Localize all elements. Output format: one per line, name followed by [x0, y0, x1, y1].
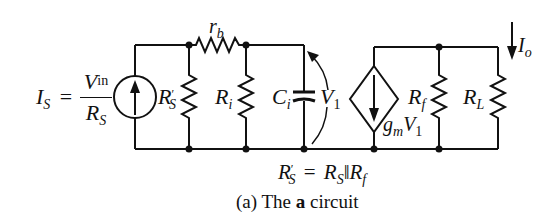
rl-label: RL — [463, 86, 484, 108]
v1-arc-lower — [312, 107, 327, 144]
v1-subscript: 1 — [333, 97, 340, 112]
rf-symbol: R — [408, 84, 421, 109]
fraction-numerator: Vin — [80, 69, 112, 98]
gmv-symbol: V — [403, 113, 415, 135]
eq-r1-sub: S — [288, 172, 295, 187]
fraction-denominator: RS — [80, 98, 112, 126]
io-subscript: o — [525, 45, 532, 60]
source-fraction: Vin RS — [80, 69, 112, 126]
parallel-equation: R′S = RS‖Rf — [278, 162, 366, 183]
node-dot — [436, 146, 443, 153]
caption-word: The — [262, 191, 292, 212]
is-subscript: S — [43, 97, 50, 112]
gm-symbol: g — [383, 113, 393, 135]
is-arrowhead — [130, 80, 140, 93]
rs-subscript: S — [99, 113, 106, 128]
node-dot — [371, 146, 378, 153]
rsp-subscript: S — [169, 97, 176, 112]
rb-symbol: r — [209, 15, 217, 37]
source-current-label: IS = — [36, 86, 72, 108]
caption-word: circuit — [310, 191, 359, 212]
ci-symbol: C — [272, 84, 287, 109]
rs-symbol: R — [86, 100, 99, 125]
caption-bold-a: a — [296, 191, 306, 212]
node-dot — [186, 146, 193, 153]
v1-arrowhead — [307, 51, 319, 62]
ri-symbol: R — [215, 84, 228, 109]
rs-prime-resistor — [182, 45, 196, 149]
eq-r3-sub: f — [362, 172, 366, 187]
gm-v1-label: gmV1 — [383, 114, 422, 134]
v1-symbol: V — [320, 84, 333, 109]
eq-r2: R — [324, 160, 337, 184]
ri-subscript: i — [228, 97, 232, 112]
equals-sign: = — [60, 84, 72, 109]
dep-arrowhead — [369, 108, 379, 122]
eq-r3: R — [350, 160, 363, 184]
eq-equals: = — [304, 160, 316, 184]
figure-caption: (a) The a circuit — [236, 191, 359, 213]
rs-prime-label: R′S — [158, 86, 176, 108]
node-dot — [243, 146, 250, 153]
rf-subscript: f — [421, 97, 425, 112]
vin-subscript: in — [97, 73, 108, 88]
rf-resistor — [432, 47, 446, 149]
node-dot — [301, 146, 308, 153]
v1-label: V1 — [320, 86, 340, 108]
ci-subscript: i — [287, 97, 291, 112]
gm-subscript: m — [393, 124, 403, 139]
io-label: Io — [518, 35, 532, 55]
io-arrowhead — [507, 46, 517, 60]
ci-label: Ci — [272, 86, 291, 108]
rf-label: Rf — [408, 86, 425, 108]
node-dot — [186, 42, 193, 49]
rb-subscript: b — [217, 26, 224, 41]
vin-symbol: V — [84, 69, 97, 94]
io-symbol: I — [518, 34, 525, 56]
node-dot — [436, 44, 443, 51]
ri-resistor — [239, 45, 253, 149]
rl-resistor — [491, 47, 505, 149]
rl-symbol: R — [463, 84, 476, 109]
caption-prefix: (a) — [236, 191, 257, 212]
ri-label: Ri — [215, 86, 232, 108]
rb-label: rb — [209, 16, 224, 36]
rl-subscript: L — [476, 97, 484, 112]
eq-r2-sub: S — [337, 172, 344, 187]
gmv-subscript: 1 — [415, 124, 422, 139]
node-dot — [243, 42, 250, 49]
ci-plate-bottom — [293, 99, 315, 101]
